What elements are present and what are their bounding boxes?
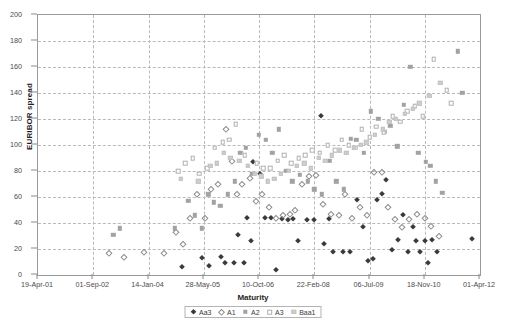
data-point-a3 <box>268 166 273 171</box>
data-point-baa1 <box>364 140 368 144</box>
data-point-a2 <box>456 49 460 53</box>
data-point-a2 <box>416 151 420 155</box>
data-point-a1 <box>436 233 442 239</box>
data-point-a1 <box>234 191 240 197</box>
data-point-baa1 <box>337 148 341 152</box>
data-point-a1 <box>239 181 245 187</box>
data-point-a2 <box>218 204 222 208</box>
data-point-aa3 <box>383 177 389 183</box>
legend-marker-icon <box>291 309 297 315</box>
data-point-a2 <box>290 179 294 183</box>
legend-item-baa1[interactable]: Baa1 <box>291 309 316 316</box>
data-point-a1 <box>371 169 377 175</box>
data-point-baa1 <box>381 127 385 131</box>
data-point-a3 <box>310 148 315 153</box>
data-point-a2 <box>305 179 309 183</box>
data-point-a2 <box>388 123 392 127</box>
data-point-a1 <box>105 250 111 256</box>
data-point-a2 <box>232 179 236 183</box>
data-point-baa1 <box>178 177 182 181</box>
data-point-aa3 <box>405 248 411 254</box>
data-point-baa1 <box>221 151 225 155</box>
data-point-aa3 <box>244 215 250 221</box>
data-point-a1 <box>356 204 362 210</box>
data-point-a1 <box>349 215 355 221</box>
y-tick-mark <box>31 222 37 223</box>
data-point-a2 <box>434 179 438 183</box>
data-point-aa3 <box>272 267 278 273</box>
data-point-a1 <box>272 215 278 221</box>
plot-area <box>37 14 481 276</box>
data-point-aa3 <box>222 260 228 266</box>
x-tick-mark <box>92 274 93 279</box>
data-point-a2 <box>312 187 316 191</box>
data-point-aa3 <box>248 238 254 244</box>
data-point-a1 <box>342 191 348 197</box>
data-point-aa3 <box>413 238 419 244</box>
data-point-a3 <box>213 145 218 150</box>
legend-item-a3[interactable]: A3 <box>267 309 284 316</box>
data-point-a2 <box>428 164 432 168</box>
data-point-a2 <box>408 65 412 69</box>
data-point-a2 <box>460 91 464 95</box>
data-point-a3 <box>367 135 372 140</box>
data-point-baa1 <box>196 179 200 183</box>
legend-label: A3 <box>275 309 284 316</box>
y-tick-label: 140 <box>0 88 22 97</box>
data-point-a3 <box>296 156 301 161</box>
legend-item-a2[interactable]: A2 <box>243 309 260 316</box>
data-point-aa3 <box>303 217 309 223</box>
data-point-a3 <box>449 101 454 106</box>
data-point-aa3 <box>347 248 353 254</box>
data-point-aa3 <box>379 191 385 197</box>
y-tick-label: 160 <box>0 62 22 71</box>
data-point-baa1 <box>417 101 421 105</box>
x-tick-mark <box>147 274 148 279</box>
data-point-a3 <box>183 161 188 166</box>
data-point-aa3 <box>400 212 406 218</box>
data-point-baa1 <box>410 106 414 110</box>
data-point-aa3 <box>425 260 431 266</box>
data-point-a3 <box>242 153 247 158</box>
legend-marker-icon <box>190 309 196 315</box>
data-point-a2 <box>199 226 203 230</box>
legend-item-a1[interactable]: A1 <box>218 309 235 316</box>
data-point-baa1 <box>358 143 362 147</box>
x-tick-mark <box>368 274 369 279</box>
data-point-aa3 <box>231 260 237 266</box>
data-point-baa1 <box>294 164 298 168</box>
data-point-aa3 <box>179 264 185 270</box>
data-point-a1 <box>266 204 272 210</box>
data-point-a2 <box>320 192 324 196</box>
data-point-a1 <box>398 224 404 230</box>
data-point-aa3 <box>261 215 267 221</box>
data-point-a2 <box>270 151 274 155</box>
data-point-a3 <box>317 151 322 156</box>
data-point-a2 <box>395 144 399 148</box>
data-point-aa3 <box>417 248 423 254</box>
legend-marker-icon <box>267 309 273 315</box>
data-point-a3 <box>282 153 287 158</box>
data-point-a3 <box>398 119 403 124</box>
data-point-a2 <box>193 213 197 217</box>
data-point-aa3 <box>469 235 475 241</box>
data-point-a3 <box>233 122 238 127</box>
data-point-baa1 <box>427 93 431 97</box>
legend-item-aa3[interactable]: Aa3 <box>190 309 211 316</box>
data-point-a2 <box>226 192 230 196</box>
data-point-a1 <box>223 126 229 132</box>
data-point-baa1 <box>330 153 334 157</box>
data-point-baa1 <box>352 145 356 149</box>
scatter-chart: EURIBOR spread 0204060801001201401601802… <box>0 0 506 332</box>
data-point-a1 <box>364 212 370 218</box>
data-point-a2 <box>263 138 267 142</box>
x-tick-mark <box>37 274 38 279</box>
legend-label: Aa3 <box>199 309 211 316</box>
data-point-aa3 <box>370 256 376 262</box>
data-point-a1 <box>215 181 221 187</box>
y-tick-mark <box>31 170 37 171</box>
data-point-a3 <box>359 127 364 132</box>
data-point-a1 <box>422 215 428 221</box>
data-point-baa1 <box>387 119 391 123</box>
data-point-baa1 <box>344 151 348 155</box>
